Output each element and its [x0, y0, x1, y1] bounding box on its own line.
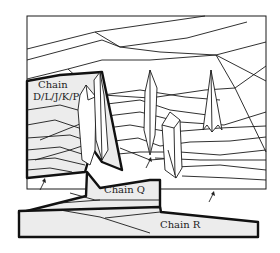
chain-dljkp-label-line1: Chain	[38, 79, 68, 90]
chain-dljkp-label-line2: D/L/J/K/P	[33, 91, 80, 102]
diagram-canvas: Chain D/L/J/K/P Chain Q Chain R	[0, 0, 280, 253]
arrow-right-icon	[209, 191, 215, 202]
chain-r-block	[19, 207, 258, 237]
chain-q-label: Chain Q	[104, 184, 145, 195]
chain-r-outline	[19, 207, 258, 237]
chain-r-label: Chain R	[160, 219, 201, 230]
crystal-packing-diagram: Chain D/L/J/K/P Chain Q Chain R	[0, 0, 280, 253]
